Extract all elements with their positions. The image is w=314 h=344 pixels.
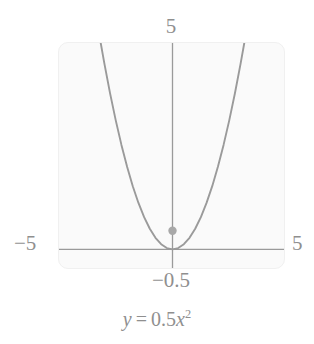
equation-lhs: y bbox=[123, 308, 132, 330]
y-axis-min-label: −0.5 bbox=[14, 270, 314, 291]
equation-equals: = bbox=[132, 308, 151, 330]
equation-coefficient: 0.5 bbox=[151, 308, 176, 330]
plot-panel bbox=[58, 42, 285, 269]
x-axis-min-label: −5 bbox=[14, 233, 36, 254]
equation-exponent: 2 bbox=[185, 307, 191, 321]
marked-point bbox=[168, 227, 176, 235]
equation-variable: x bbox=[176, 308, 185, 330]
y-axis-max-label: 5 bbox=[14, 16, 314, 37]
x-axis-max-label: 5 bbox=[292, 233, 303, 254]
graph-figure: 5 −5 5 −0.5 y=0.5x2 bbox=[0, 0, 314, 344]
plot-canvas bbox=[59, 43, 285, 269]
equation-caption: y=0.5x2 bbox=[0, 308, 314, 329]
